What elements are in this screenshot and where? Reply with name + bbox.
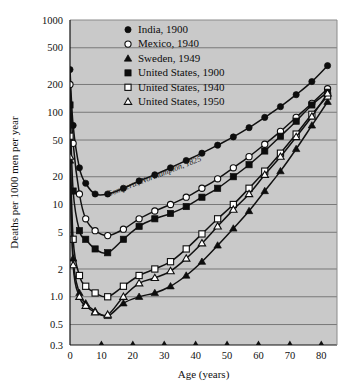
x-tick-label: 0 bbox=[67, 350, 72, 361]
data-point-marker bbox=[92, 246, 98, 252]
y-tick-label: 0.5 bbox=[50, 319, 63, 330]
data-point-marker bbox=[167, 210, 173, 216]
data-point-marker bbox=[92, 228, 98, 234]
data-point-marker bbox=[246, 125, 252, 131]
x-tick-label: 70 bbox=[285, 350, 296, 361]
y-tick-label: 50 bbox=[53, 135, 64, 146]
data-point-marker bbox=[183, 203, 189, 209]
y-axis-title: Deaths per 1000 men per year bbox=[8, 116, 20, 249]
data-point-marker bbox=[70, 236, 76, 242]
x-tick-label: 10 bbox=[96, 350, 107, 361]
data-point-marker bbox=[120, 283, 126, 289]
data-point-marker bbox=[277, 133, 283, 139]
chart-canvas: 0.30.51.0251020501002005001000 010203040… bbox=[0, 0, 351, 388]
data-point-marker bbox=[83, 283, 89, 289]
legend-item-label: United States, 1950 bbox=[138, 95, 225, 107]
data-point-marker bbox=[152, 216, 158, 222]
data-point-marker bbox=[246, 162, 252, 168]
data-point-marker bbox=[76, 165, 82, 171]
y-tick-label: 2 bbox=[58, 264, 63, 275]
data-point-marker bbox=[262, 114, 268, 120]
x-axis-title: Age (years) bbox=[178, 368, 230, 381]
data-point-marker bbox=[136, 216, 142, 222]
data-point-marker bbox=[293, 92, 299, 98]
data-point-marker bbox=[76, 191, 82, 197]
data-point-marker bbox=[262, 148, 268, 154]
y-tick-label: 0.3 bbox=[50, 340, 63, 351]
data-point-marker bbox=[136, 223, 142, 229]
data-point-marker bbox=[199, 231, 205, 237]
data-point-marker bbox=[125, 84, 131, 90]
data-point-marker bbox=[92, 191, 98, 197]
legend-item-6: United States, 1950 bbox=[124, 95, 225, 107]
legend-item-label: Mexico, 1940 bbox=[138, 37, 200, 49]
data-point-marker bbox=[293, 118, 299, 124]
x-tick-label: 30 bbox=[159, 350, 170, 361]
data-point-marker bbox=[105, 250, 111, 256]
data-point-marker bbox=[105, 294, 111, 300]
data-point-marker bbox=[215, 185, 221, 191]
legend-item-label: India, 1900 bbox=[138, 23, 189, 35]
data-point-marker bbox=[167, 259, 173, 265]
y-tick-label: 500 bbox=[47, 42, 63, 53]
data-point-marker bbox=[246, 154, 252, 160]
data-point-marker bbox=[125, 41, 131, 47]
data-point-marker bbox=[152, 266, 158, 272]
data-point-marker bbox=[125, 70, 131, 76]
data-point-marker bbox=[125, 27, 131, 33]
data-point-marker bbox=[120, 236, 126, 242]
x-tick-label: 40 bbox=[190, 350, 201, 361]
data-point-marker bbox=[309, 78, 315, 84]
y-tick-label: 20 bbox=[53, 171, 64, 182]
data-point-marker bbox=[105, 233, 111, 239]
data-point-marker bbox=[76, 272, 82, 278]
data-point-marker bbox=[215, 216, 221, 222]
legend-item-4: United States, 1900 bbox=[125, 66, 225, 78]
x-tick-label: 60 bbox=[253, 350, 264, 361]
data-point-marker bbox=[83, 236, 89, 242]
y-tick-label: 100 bbox=[47, 107, 63, 118]
y-tick-label: 200 bbox=[47, 79, 63, 90]
x-tick-label: 20 bbox=[128, 350, 139, 361]
mortality-chart-figure: 0.30.51.0251020501002005001000 010203040… bbox=[0, 0, 351, 388]
y-tick-label: 5 bbox=[58, 227, 63, 238]
data-point-marker bbox=[83, 216, 89, 222]
x-tick-label: 50 bbox=[222, 350, 233, 361]
data-point-marker bbox=[277, 104, 283, 110]
data-point-marker bbox=[199, 185, 205, 191]
data-point-marker bbox=[199, 194, 205, 200]
data-point-marker bbox=[183, 246, 189, 252]
data-point-marker bbox=[230, 134, 236, 140]
data-point-marker bbox=[136, 272, 142, 278]
data-point-marker bbox=[199, 150, 205, 156]
y-tick-label: 1000 bbox=[42, 15, 63, 26]
legend-item-label: United States, 1900 bbox=[138, 66, 225, 78]
legend-item-label: United States, 1940 bbox=[138, 81, 225, 93]
data-point-marker bbox=[309, 102, 315, 108]
y-tick-label: 10 bbox=[53, 199, 64, 210]
data-point-marker bbox=[262, 141, 268, 147]
data-point-marker bbox=[230, 174, 236, 180]
data-point-marker bbox=[324, 63, 330, 69]
data-point-marker bbox=[120, 226, 126, 232]
y-tick-label: 1.0 bbox=[50, 291, 63, 302]
data-point-marker bbox=[230, 165, 236, 171]
data-point-marker bbox=[152, 208, 158, 214]
data-point-marker bbox=[83, 180, 89, 186]
legend-item-label: Sweden, 1949 bbox=[138, 52, 201, 64]
data-point-marker bbox=[167, 201, 173, 207]
data-point-marker bbox=[183, 194, 189, 200]
legend-item-5: United States, 1940 bbox=[125, 81, 225, 93]
x-tick-label: 80 bbox=[316, 350, 327, 361]
data-point-marker bbox=[215, 176, 221, 182]
data-point-marker bbox=[92, 290, 98, 296]
data-point-marker bbox=[215, 142, 221, 148]
data-point-marker bbox=[76, 228, 82, 234]
